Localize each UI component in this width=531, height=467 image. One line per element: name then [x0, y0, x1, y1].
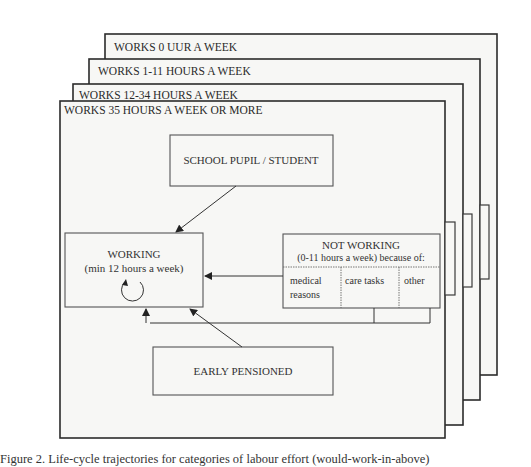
- frame-tab: [463, 214, 472, 287]
- reason-medical-line2: reasons: [290, 289, 320, 300]
- school-pupil-student-box: SCHOOL PUPIL / STUDENT: [170, 135, 333, 186]
- not-working-subtitle: (0-11 hours a week) because of:: [297, 252, 425, 264]
- frame-label: WORKS 0 UUR A WEEK: [114, 41, 238, 53]
- reason-medical: medical: [290, 275, 322, 286]
- reason-other: other: [404, 275, 425, 286]
- pensioned-box-label: EARLY PENSIONED: [193, 365, 292, 377]
- frame-tab: [445, 222, 455, 295]
- working-box: WORKING (min 12 hours a week): [65, 233, 203, 307]
- working-box-subtitle: (min 12 hours a week): [85, 262, 184, 275]
- not-working-box: NOT WORKING (0-11 hours a week) because …: [283, 234, 440, 308]
- frame-label: WORKS 35 HOURS A WEEK OR MORE: [64, 104, 263, 116]
- working-box-title: WORKING: [107, 248, 160, 260]
- figure-caption: Figure 2. Life-cycle trajectories for ca…: [0, 452, 531, 467]
- frame-label: WORKS 1-11 HOURS A WEEK: [98, 65, 251, 77]
- frame-label: WORKS 12-34 HOURS A WEEK: [79, 89, 239, 101]
- school-box-label: SCHOOL PUPIL / STUDENT: [183, 154, 318, 166]
- not-working-title: NOT WORKING: [322, 239, 400, 251]
- reason-care-tasks: care tasks: [345, 275, 384, 286]
- frame-tab: [480, 205, 489, 279]
- early-pensioned-box: EARLY PENSIONED: [153, 347, 333, 395]
